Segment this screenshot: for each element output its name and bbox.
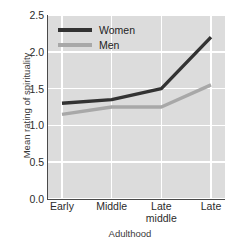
- legend-swatch-icon: [58, 43, 92, 47]
- spirituality-line-chart: Mean rating of spirituality 2.52.01.51.0…: [0, 0, 229, 251]
- legend-label: Men: [99, 39, 119, 51]
- x-axis-title: Adulthood: [40, 228, 220, 239]
- legend-item: Women: [58, 24, 135, 36]
- legend: WomenMen: [58, 24, 135, 54]
- legend-item: Men: [58, 39, 135, 51]
- legend-label: Women: [99, 24, 135, 36]
- legend-swatch-icon: [58, 28, 92, 32]
- series-line-men: [62, 85, 211, 114]
